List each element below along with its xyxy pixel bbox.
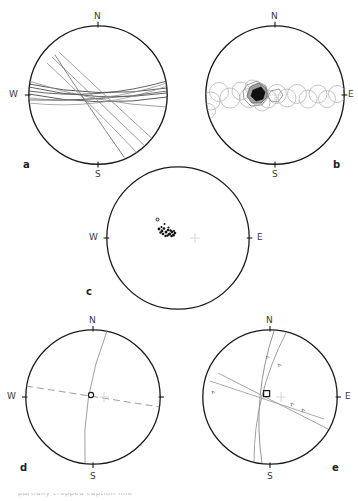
panel-e-stereonet	[202, 329, 338, 465]
stereonet-figure: N S W a	[0, 0, 358, 501]
panel-a-stereonet	[28, 25, 168, 165]
compass-label-north-e: N	[266, 316, 273, 325]
panel-letter-c: c	[86, 287, 92, 297]
compass-label-west-a: W	[9, 90, 18, 99]
compass-label-west-c: W	[89, 233, 98, 242]
pole-marker-open-square-e	[264, 391, 270, 397]
compass-label-east-b: E	[348, 90, 354, 99]
pole-marker-open-circle-d	[88, 392, 93, 397]
caption-fragment: partially cropped caption line	[18, 493, 132, 497]
panel-b	[205, 25, 345, 165]
panel-d-stereonet	[25, 329, 161, 465]
panel-letter-a: a	[23, 160, 30, 170]
panel-letter-b: b	[333, 160, 340, 170]
compass-label-west-d: W	[7, 392, 16, 401]
panel-letter-d: d	[20, 463, 27, 473]
panel-c	[106, 181, 250, 297]
compass-label-south-d: S	[90, 472, 96, 481]
compass-label-north-d: N	[89, 316, 96, 325]
compass-label-south-e: S	[267, 472, 273, 481]
panel-d	[25, 329, 161, 465]
compass-label-east-c: E	[257, 233, 263, 242]
panel-b-stereonet	[205, 25, 345, 165]
compass-label-north-a: N	[94, 12, 101, 21]
caption-strip: partially cropped caption line	[0, 493, 358, 501]
panel-letter-e: e	[332, 463, 339, 473]
compass-label-south-b: S	[272, 170, 278, 179]
panel-e	[202, 329, 338, 465]
compass-label-east-e: E	[345, 392, 351, 401]
primitive-circle-c	[107, 167, 249, 309]
panel-c-stereonet	[106, 181, 250, 297]
compass-label-south-a: S	[95, 170, 101, 179]
panel-a	[28, 25, 168, 165]
compass-label-north-b: N	[271, 12, 278, 21]
